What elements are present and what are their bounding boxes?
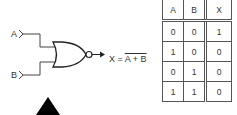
input-a-terminal-icon [19, 30, 23, 38]
table-row: 0 1 0 [163, 62, 232, 82]
cell-b: 0 [184, 42, 206, 62]
input-b-terminal-icon [19, 71, 23, 79]
cell-b: 1 [184, 62, 206, 82]
cell-a: 0 [163, 21, 184, 42]
triangle-icon [36, 97, 60, 115]
table-row: 1 1 0 [163, 82, 232, 102]
cell-x: 0 [206, 62, 232, 82]
nor-gate-icon [53, 42, 86, 67]
cell-a: 1 [163, 42, 184, 62]
table-row: 0 0 1 [163, 21, 232, 42]
cell-x: 1 [206, 21, 232, 42]
header-x: X [206, 0, 232, 21]
cell-a: 1 [163, 82, 184, 102]
output-expression-overlined: A + B [125, 54, 147, 64]
input-b-label: B [11, 70, 17, 80]
output-arrow-icon [100, 52, 105, 58]
cell-b: 0 [184, 21, 206, 42]
truth-table: A B X 0 0 1 1 0 0 0 1 0 1 1 0 [162, 0, 232, 102]
inversion-bubble-icon [86, 52, 92, 58]
header-b: B [184, 0, 206, 21]
truth-table-header: A B X [163, 0, 232, 21]
table-row: 1 0 0 [163, 42, 232, 62]
output-expression: X = A + B [109, 54, 147, 64]
cell-x: 0 [206, 42, 232, 62]
output-label: X = [109, 54, 123, 64]
header-a: A [163, 0, 184, 21]
input-a-label: A [11, 29, 17, 39]
cell-x: 0 [206, 82, 232, 102]
cell-a: 0 [163, 62, 184, 82]
cell-b: 1 [184, 82, 206, 102]
